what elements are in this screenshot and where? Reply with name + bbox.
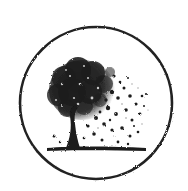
tree-emblem [0, 0, 188, 191]
tree-icon [47, 57, 149, 151]
tree-circle-icon [0, 0, 188, 191]
